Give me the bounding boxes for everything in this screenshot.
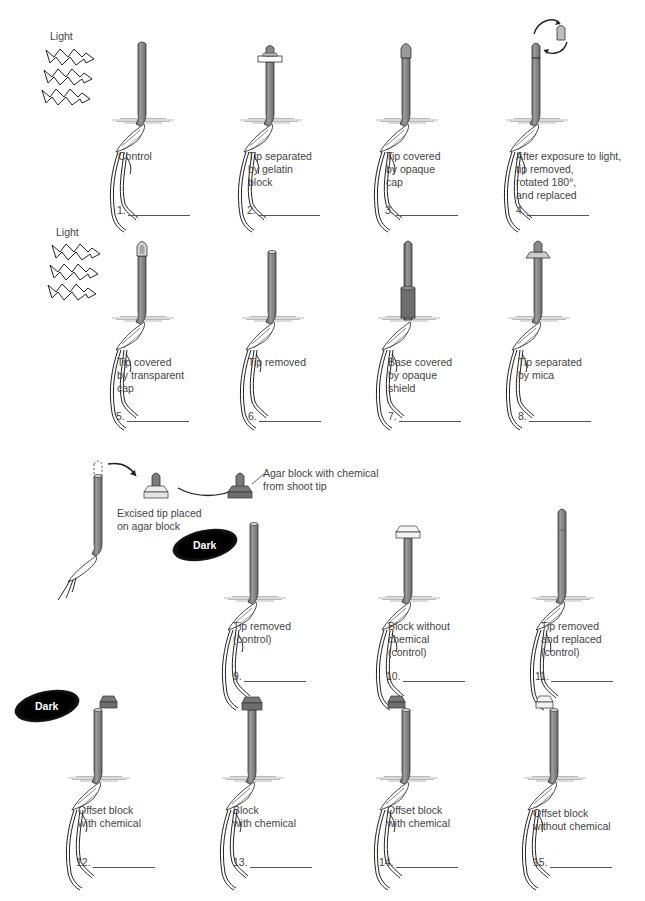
tip-on-agar-block bbox=[136, 470, 176, 500]
answer-11[interactable]: 11. bbox=[535, 670, 613, 682]
answer-2[interactable]: 2. bbox=[247, 204, 320, 216]
caption-14: Offset block with chemical bbox=[387, 804, 450, 830]
caption-excised-tip: Excised tip placed on agar block bbox=[117, 507, 202, 533]
seedling-8-mica bbox=[496, 238, 606, 428]
seedling-7-base-shield bbox=[366, 238, 476, 428]
seedling-2-gelatin-block bbox=[228, 40, 338, 230]
caption-7: Base covered by opaque shield bbox=[388, 356, 452, 395]
caption-agar-block: Agar block with chemical from shoot tip bbox=[263, 467, 379, 493]
answer-1[interactable]: 1. bbox=[117, 204, 190, 216]
answer-14[interactable]: 14. bbox=[379, 856, 458, 868]
offset-block-without-chemical bbox=[536, 702, 553, 708]
removed-tip bbox=[557, 26, 565, 41]
caption-4: After exposure to light, tip removed, ro… bbox=[516, 150, 621, 202]
caption-15: Offset block without chemical bbox=[533, 807, 611, 833]
opaque-shield bbox=[401, 288, 415, 318]
answer-4[interactable]: 4. bbox=[516, 204, 589, 216]
seedling-6-tip-removed bbox=[230, 238, 340, 428]
light-rays-icon bbox=[42, 45, 102, 115]
gelatin-block bbox=[258, 56, 282, 62]
seedling-3-opaque-cap bbox=[364, 40, 474, 230]
light-label: Light bbox=[50, 30, 73, 42]
caption-5: Tip covered by transparent cap bbox=[117, 356, 184, 395]
caption-6: Tip removed bbox=[248, 356, 306, 369]
answer-7[interactable]: 7. bbox=[388, 410, 461, 422]
offset-block-with-chemical bbox=[100, 702, 117, 708]
mica-sheet bbox=[526, 252, 550, 258]
answer-12[interactable]: 12. bbox=[76, 856, 155, 868]
opaque-cap bbox=[401, 44, 411, 59]
answer-9[interactable]: 9. bbox=[233, 670, 306, 682]
caption-2: Tip separated by gelatin block bbox=[248, 150, 312, 189]
answer-8[interactable]: 8. bbox=[518, 410, 591, 422]
answer-10[interactable]: 10. bbox=[386, 670, 465, 682]
light-label-2: Light bbox=[56, 226, 79, 238]
seedling-11-tip-replaced-control bbox=[520, 506, 630, 696]
answer-3[interactable]: 3. bbox=[385, 204, 458, 216]
caption-10: Block without chemical (control) bbox=[388, 620, 450, 659]
answer-5[interactable]: 5. bbox=[116, 410, 189, 422]
seedling-1-control bbox=[100, 40, 210, 230]
caption-3: Tip covered by opaque cap bbox=[386, 150, 440, 189]
answer-6[interactable]: 6. bbox=[248, 410, 321, 422]
caption-1: Control bbox=[118, 150, 152, 163]
answer-13[interactable]: 13. bbox=[233, 856, 312, 868]
caption-8: Tip separated by mica bbox=[518, 356, 582, 382]
block-without-chemical bbox=[396, 526, 420, 532]
seedling-5-transparent-cap bbox=[100, 238, 210, 428]
offset-block-with-chemical bbox=[388, 702, 405, 708]
caption-11: Tip removed and replaced (control) bbox=[541, 620, 602, 659]
rotate-arrow-icon bbox=[534, 20, 560, 34]
caption-12: Offset block with chemical bbox=[78, 804, 141, 830]
caption-9: Tip removed (control) bbox=[233, 620, 291, 646]
block-with-chemical bbox=[242, 703, 262, 710]
light-rays-icon-2 bbox=[48, 240, 108, 310]
answer-15[interactable]: 15. bbox=[533, 856, 612, 868]
agar-block-with-chemical bbox=[220, 470, 260, 500]
caption-13: Block with chemical bbox=[233, 804, 296, 830]
